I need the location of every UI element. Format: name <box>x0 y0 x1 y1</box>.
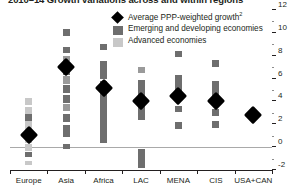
country-segment <box>63 125 70 136</box>
average-growth-marker-europe <box>20 125 38 143</box>
x-label-mena: MENA <box>167 176 190 185</box>
y-tick-mark <box>272 55 276 56</box>
country-segment <box>25 107 32 114</box>
country-segment <box>212 121 219 128</box>
y-tick-mark <box>272 78 276 79</box>
y-minor-tick <box>272 159 274 160</box>
legend-item-1[interactable]: Emerging and developing economies <box>112 24 292 37</box>
country-segment <box>25 152 32 158</box>
y-minor-tick <box>272 113 274 114</box>
y-tick-mark <box>272 123 276 124</box>
chart-legend: Average PPP-weighted growth2Emerging and… <box>112 11 292 49</box>
legend-swatch-icon <box>113 26 123 35</box>
country-segment <box>25 161 32 166</box>
y-tick-mark <box>272 100 276 101</box>
x-label-usa-can: USA+CAN <box>234 176 272 185</box>
average-growth-marker-usa-can <box>244 106 262 124</box>
country-segment <box>175 106 182 112</box>
country-segment <box>25 144 32 151</box>
x-axis-tick <box>160 170 161 174</box>
chart-title: 2010–14 Growth variations across and wit… <box>8 0 298 5</box>
x-axis-tick <box>197 170 198 174</box>
average-growth-marker-asia <box>57 58 75 76</box>
legend-marker <box>112 12 122 22</box>
average-growth-marker-lac <box>132 92 150 110</box>
country-segment <box>212 60 219 67</box>
average-growth-marker-africa <box>94 79 112 97</box>
x-axis-line <box>10 170 272 171</box>
country-segment <box>25 98 32 105</box>
legend-label: Advanced economies <box>128 36 206 45</box>
legend-diamond-icon <box>111 11 124 24</box>
legend-footnote: 2 <box>239 11 242 17</box>
y-tick-mark <box>272 9 276 10</box>
country-segment <box>138 67 145 73</box>
chart-title-text: 2010–14 Growth variations across and wit… <box>8 0 243 5</box>
average-growth-marker-cis <box>207 92 225 110</box>
legend-label: Average PPP-weighted growth2 <box>128 11 242 22</box>
x-axis-tick <box>272 170 273 174</box>
country-segment <box>175 122 182 129</box>
country-segment <box>25 114 32 121</box>
country-segment <box>63 95 70 103</box>
x-label-asia: Asia <box>58 176 74 185</box>
country-segment <box>175 51 182 57</box>
x-axis-tick <box>10 170 11 174</box>
x-label-europe: Europe <box>16 176 42 185</box>
legend-item-0[interactable]: Average PPP-weighted growth2 <box>112 11 292 24</box>
legend-marker <box>112 37 123 47</box>
x-axis-tick <box>85 170 86 174</box>
zero-reference-line <box>10 147 272 148</box>
legend-label: Emerging and developing economies <box>128 24 263 33</box>
y-minor-tick <box>272 67 274 68</box>
legend-swatch-icon <box>113 38 123 47</box>
x-label-africa: Africa <box>93 176 113 185</box>
country-segment <box>63 114 70 122</box>
average-growth-marker-mena <box>169 87 187 105</box>
country-segment <box>63 76 70 84</box>
x-axis-tick <box>122 170 123 174</box>
country-segment <box>100 61 107 78</box>
legend-item-2[interactable]: Advanced economies <box>112 36 292 49</box>
x-label-lac: LAC <box>133 176 149 185</box>
x-axis-tick <box>47 170 48 174</box>
country-segment <box>138 149 145 167</box>
country-segment <box>63 104 70 111</box>
country-segment <box>100 44 107 50</box>
legend-marker <box>112 25 123 35</box>
country-segment <box>212 109 219 116</box>
country-segment <box>63 47 70 54</box>
country-segment <box>63 29 70 36</box>
country-segment <box>63 144 70 150</box>
x-axis-labels: EuropeAsiaAfricaLACMENACISUSA+CAN <box>10 176 272 190</box>
chart-container: 2010–14 Growth variations across and wit… <box>0 0 302 192</box>
x-label-cis: CIS <box>209 176 222 185</box>
country-segment <box>63 85 70 93</box>
y-tick-mark <box>272 146 276 147</box>
y-minor-tick <box>272 136 274 137</box>
y-minor-tick <box>272 90 274 91</box>
x-axis-tick <box>235 170 236 174</box>
